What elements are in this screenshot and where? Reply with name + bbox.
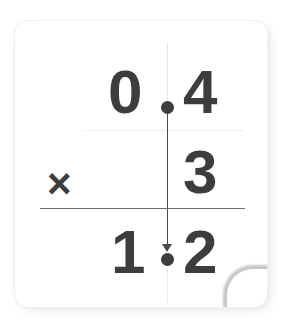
decimal-guide-solid-line [167, 109, 168, 248]
flashcard-stage: 0 4 × 3 1 2 [0, 0, 284, 328]
decimal-guide-dotted-bottom [167, 270, 168, 302]
decimal-guide-arrow-icon [162, 244, 172, 252]
multiplier-digit: 3 [183, 141, 216, 203]
decimal-guide-dotted-top [167, 43, 168, 106]
multiplicand-fraction-digit: 4 [183, 61, 216, 123]
answer-rule-line [40, 208, 245, 209]
math-problem: 0 4 × 3 1 2 [15, 21, 268, 308]
row-separator-dotted-line [84, 130, 243, 131]
flashcard: 0 4 × 3 1 2 [14, 20, 268, 308]
product-integer-digit: 1 [111, 221, 144, 283]
multiplication-operator-icon: × [47, 163, 72, 205]
product-fraction-digit: 2 [183, 221, 216, 283]
product-decimal-point [161, 253, 174, 266]
multiplicand-decimal-point [161, 101, 174, 114]
multiplicand-integer-digit: 0 [108, 61, 141, 123]
